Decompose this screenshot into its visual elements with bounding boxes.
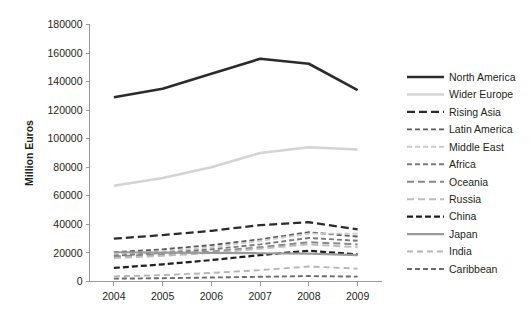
legend-item: Oceania	[407, 176, 488, 188]
series-line	[114, 147, 358, 186]
legend-item: Rising Asia	[407, 106, 501, 118]
x-tick-label: 2004	[102, 290, 126, 302]
y-tick-label: 160000	[47, 47, 82, 59]
legend-item: Russia	[407, 193, 481, 205]
legend-item: Wider Europe	[407, 88, 513, 100]
legend-item: North America	[407, 71, 516, 83]
legend-label: Middle East	[449, 141, 504, 153]
x-tick-label: 2007	[248, 290, 272, 302]
legend-item: India	[407, 245, 472, 257]
legend-label: Wider Europe	[449, 88, 513, 100]
legend-item: Japan	[407, 228, 478, 240]
y-tick-label: 180000	[47, 18, 82, 30]
x-tick-label: 2008	[297, 290, 321, 302]
legend-item: Caribbean	[407, 263, 498, 275]
legend-label: Caribbean	[449, 263, 498, 275]
legend-label: Russia	[449, 193, 481, 205]
series-line	[114, 276, 358, 279]
series-lines	[114, 59, 358, 279]
y-axis-ticks: 0200004000060000800001000001200001400001…	[47, 18, 89, 287]
legend-label: Africa	[449, 158, 476, 170]
legend-label: Oceania	[449, 176, 488, 188]
x-tick-label: 2009	[346, 290, 370, 302]
y-tick-label: 60000	[53, 189, 82, 201]
y-tick-label: 120000	[47, 104, 82, 116]
series-line	[114, 59, 358, 98]
y-tick-label: 40000	[53, 218, 82, 230]
legend-label: Rising Asia	[449, 106, 501, 118]
y-axis-title: Million Euros	[23, 120, 35, 186]
legend-item: Africa	[407, 158, 476, 170]
y-tick-label: 140000	[47, 75, 82, 87]
x-axis-ticks: 200420052006200720082009	[102, 282, 369, 302]
legend-label: India	[449, 245, 472, 257]
chart-legend: North AmericaWider EuropeRising AsiaLati…	[407, 71, 516, 275]
y-tick-label: 0	[77, 275, 83, 287]
legend-label: North America	[449, 71, 516, 83]
series-line	[114, 222, 358, 238]
legend-item: Latin America	[407, 123, 513, 135]
x-tick-label: 2006	[200, 290, 224, 302]
series-line	[114, 267, 358, 277]
legend-item: China	[407, 210, 477, 222]
legend-label: Japan	[449, 228, 478, 240]
y-tick-label: 80000	[53, 161, 82, 173]
y-tick-label: 100000	[47, 132, 82, 144]
y-tick-label: 20000	[53, 247, 82, 259]
legend-label: China	[449, 210, 477, 222]
legend-label: Latin America	[449, 123, 513, 135]
x-tick-label: 2005	[151, 290, 175, 302]
legend-item: Middle East	[407, 141, 504, 153]
chart-canvas: 0200004000060000800001000001200001400001…	[0, 0, 531, 325]
line-chart: 0200004000060000800001000001200001400001…	[0, 0, 531, 325]
